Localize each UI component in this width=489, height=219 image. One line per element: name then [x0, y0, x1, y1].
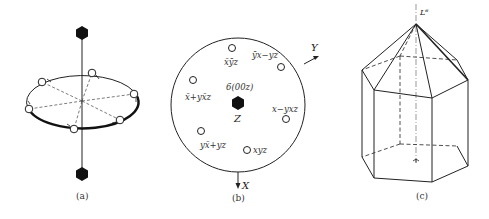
point-icon [25, 105, 33, 113]
center-label: 6(00z) [226, 82, 253, 92]
point-label: yx̄+yz [199, 140, 227, 150]
point-label: ȳx−yz [251, 50, 279, 60]
point-icon [70, 125, 78, 133]
point-icon [198, 128, 205, 135]
l6-axis-label: L⁶ [419, 8, 429, 17]
hexagon-symbol-bottom-icon [76, 167, 88, 181]
pyramid-edge [416, 24, 468, 80]
y-axis-label: Y [311, 42, 319, 53]
panel-a: (a) [25, 26, 138, 201]
pyramid-edge [416, 24, 432, 98]
x-axis-label: X [241, 180, 250, 191]
point-icon [116, 116, 124, 124]
z-axis-label: Z [233, 113, 242, 124]
point-icon [190, 77, 197, 84]
point-label: xyz [253, 145, 268, 155]
axis-end-mark-icon [413, 159, 419, 163]
point-label: x−yxz [272, 104, 299, 114]
hexagon-symbol-center-icon [232, 96, 244, 110]
x-arrowhead-icon [236, 183, 241, 189]
point-label: x̄+yx̄z [185, 92, 212, 102]
point-icon [130, 90, 138, 98]
caption-a: (a) [76, 191, 88, 201]
point-icon [278, 64, 285, 71]
point-icon [38, 78, 46, 86]
point-icon [283, 116, 290, 123]
point-icon [244, 147, 251, 154]
y-arrowhead-icon [313, 56, 319, 60]
point-icon [88, 69, 96, 77]
top-hexagon-edges [362, 60, 468, 98]
pyramid-edge [362, 24, 416, 70]
caption-b: (b) [232, 193, 245, 203]
panel-b: 6(00z) Z x̄ȳz ȳx−yz x̄+yx̄z x−yxz yx̄+yz… [171, 38, 319, 203]
point-label: x̄ȳz [224, 57, 239, 67]
panel-c: L⁶ (c) [362, 4, 468, 201]
hexagon-symbol-top-icon [76, 26, 88, 40]
caption-c: (c) [416, 191, 428, 201]
point-icon [229, 45, 236, 52]
